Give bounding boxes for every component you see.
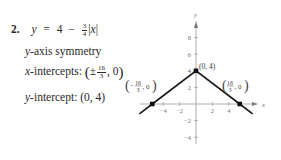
minus-sign: − [130,82,134,90]
x-tick-label: 2 [211,107,214,114]
y-tick-label: −2 [184,117,191,124]
data-point-marker [237,102,242,107]
data-point-marker [194,69,199,74]
y-axis-label: y [193,11,198,19]
function-graph: xy −4−224−4−22684 (0, 4)(−163, 0)(163, 0… [0,0,281,160]
y-tick-label: 4 [188,67,192,74]
x-axis-arrow-icon [252,102,258,106]
data-point-marker [150,102,155,107]
y-axis-arrow-icon [194,21,198,28]
paren-close: ) [244,78,249,94]
fraction-denominator: 3 [229,87,232,93]
x-tick-label: −4 [160,107,168,114]
x-tick-label: 4 [227,107,231,114]
y-tick-label: −4 [184,134,192,141]
y-tick-label: 6 [188,51,192,58]
label-rest: , 0 [235,83,243,91]
point-label-neg-x-intercept: (−163, 0) [125,78,157,94]
point-label-pos-x-intercept: (163, 0) [222,78,249,94]
x-axis-label: x [261,101,266,109]
y-tick-label: 8 [188,34,191,41]
point-label-vertex: (0, 4) [199,62,216,71]
paren-close: ) [152,78,157,94]
x-tick-label: −2 [176,107,183,114]
ticks: −4−224−4−22684 [160,34,231,141]
fraction-numerator: 16 [227,80,233,86]
fraction-denominator: 3 [137,87,140,93]
fraction-numerator: 16 [135,80,141,86]
label-rest: , 0 [143,83,151,91]
y-tick-label: 2 [188,84,191,91]
